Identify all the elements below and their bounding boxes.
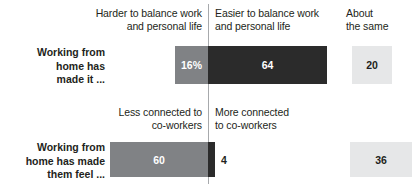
row-label-them-feel: Working from home has made them feel ...	[0, 141, 105, 182]
row-label-line: home has made	[0, 155, 105, 169]
column-header-harder-balance: Harder to balance work and personal life	[74, 7, 202, 33]
bar-value-label: 36	[375, 154, 387, 166]
bar-value-label: 60	[153, 154, 165, 166]
bar-row2-right-value-label: 4	[221, 154, 227, 166]
column-header-line: About	[346, 7, 416, 20]
column-header-more-connected: More connected to co-workers	[215, 106, 333, 132]
column-header-line: and personal life	[215, 20, 333, 33]
row-label-line: made it ...	[0, 73, 105, 87]
column-header-line: Easier to balance work	[215, 7, 333, 20]
about-the-same-box-row2: 36	[350, 142, 412, 177]
bar-value-label: 16%	[181, 59, 202, 71]
column-header-line: More connected	[215, 106, 333, 119]
bar-row1-right: 64	[208, 46, 327, 84]
column-header-easier-balance: Easier to balance work and personal life	[215, 7, 333, 33]
column-header-line: co-workers	[74, 119, 202, 132]
column-header-line: Harder to balance work	[74, 7, 202, 20]
column-header-line: and personal life	[74, 20, 202, 33]
column-header-line: to co-workers	[215, 119, 333, 132]
column-header-line: Less connected to	[74, 106, 202, 119]
row-label-line: Working from	[0, 141, 105, 155]
column-header-line: the same	[346, 20, 416, 33]
row-label-made-it: Working from home has made it ...	[0, 46, 105, 87]
row-label-line: Working from	[0, 46, 105, 60]
bar-value-label: 64	[262, 59, 274, 71]
bar-row2-right	[208, 142, 215, 177]
diverging-bar-chart: Harder to balance work and personal life…	[0, 0, 420, 188]
bar-value-label: 20	[366, 59, 378, 71]
bar-row1-left: 16%	[175, 46, 208, 84]
column-header-less-connected: Less connected to co-workers	[74, 106, 202, 132]
row-label-line: home has	[0, 60, 105, 74]
column-header-about-the-same: About the same	[346, 7, 416, 33]
bar-row2-left: 60	[110, 142, 208, 177]
row-label-line: them feel ...	[0, 168, 105, 182]
about-the-same-box-row1: 20	[352, 46, 392, 84]
